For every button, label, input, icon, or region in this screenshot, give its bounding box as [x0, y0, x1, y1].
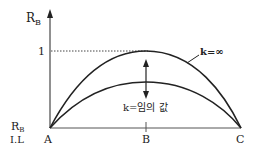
- y-axis-label: RB: [26, 11, 41, 27]
- point-a-label: A: [43, 133, 53, 145]
- k-arbitrary-label: k=임의 값: [123, 101, 168, 113]
- bottom-left-rb-label: RB: [11, 120, 24, 134]
- bottom-left-il-label: I.L: [10, 134, 24, 145]
- y-axis: [47, 9, 53, 128]
- influence-line-diagram: RB 1 k=∞ k=임의 값 A B C RB I.L: [0, 0, 257, 145]
- k-infinity-leader-line: [187, 55, 199, 63]
- k-infinity-label: k=∞: [200, 46, 224, 57]
- y-axis-arrow-icon: [47, 9, 53, 18]
- point-b-label: B: [142, 133, 150, 145]
- point-c-label: C: [236, 133, 244, 145]
- y-tick-label-1: 1: [38, 45, 45, 58]
- double-arrow-icon: [143, 59, 149, 99]
